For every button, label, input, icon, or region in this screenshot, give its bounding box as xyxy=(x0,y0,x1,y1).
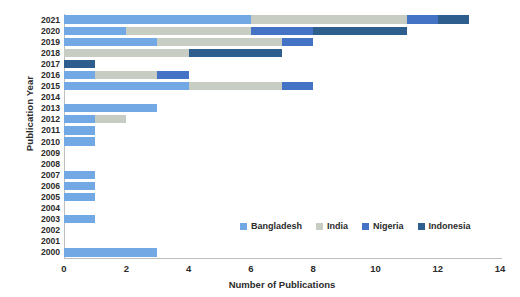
legend-label: Indonesia xyxy=(429,221,471,231)
bar-segment xyxy=(407,15,438,23)
x-axis-tick-label: 4 xyxy=(186,263,191,274)
bar-segment xyxy=(95,115,126,123)
bar-row xyxy=(64,15,500,23)
bar-segment xyxy=(64,215,95,223)
bar-row xyxy=(64,149,500,157)
x-axis-tick-label: 8 xyxy=(310,263,315,274)
bar-row xyxy=(64,182,500,190)
legend-item[interactable]: India xyxy=(316,221,348,231)
legend-swatch-icon xyxy=(240,223,247,230)
x-axis-tick-label: 12 xyxy=(432,263,443,274)
y-axis-tick-label: 2009 xyxy=(18,148,60,158)
bar-segment xyxy=(64,49,189,57)
bar-segment xyxy=(282,82,313,90)
bar-row xyxy=(64,71,500,79)
y-axis-tick-label: 2000 xyxy=(18,247,60,257)
x-axis-tick-label: 2 xyxy=(124,263,129,274)
bar-segment xyxy=(64,126,95,134)
y-axis-tick-label: 2006 xyxy=(18,181,60,191)
bar-row xyxy=(64,204,500,212)
y-axis-tick-label: 2005 xyxy=(18,192,60,202)
legend-label: India xyxy=(327,221,348,231)
bar-segment xyxy=(64,15,251,23)
y-axis-tick-label: 2013 xyxy=(18,103,60,113)
bar-row xyxy=(64,237,500,245)
y-axis-tick-label: 2016 xyxy=(18,70,60,80)
bar-row xyxy=(64,38,500,46)
bar-segment xyxy=(64,115,95,123)
y-axis-tick-label: 2010 xyxy=(18,137,60,147)
legend-item[interactable]: Nigeria xyxy=(362,221,404,231)
y-axis-tick-label: 2008 xyxy=(18,159,60,169)
bar-segment xyxy=(313,27,406,35)
bar-segment xyxy=(157,38,282,46)
bar-segment xyxy=(251,27,313,35)
legend-swatch-icon xyxy=(362,223,369,230)
y-axis-tick-label: 2017 xyxy=(18,59,60,69)
bar-segment xyxy=(438,15,469,23)
bar-segment xyxy=(64,60,95,68)
y-axis-tick-label: 2011 xyxy=(18,125,60,135)
x-axis-tick-label: 0 xyxy=(61,263,66,274)
legend-label: Nigeria xyxy=(373,221,404,231)
bar-segment xyxy=(64,248,157,256)
chart-legend: BangladeshIndiaNigeriaIndonesia xyxy=(240,221,471,231)
legend-item[interactable]: Indonesia xyxy=(418,221,471,231)
legend-swatch-icon xyxy=(316,223,323,230)
legend-swatch-icon xyxy=(418,223,425,230)
publications-by-year-chart: Publication Year 20212020201920182017201… xyxy=(0,0,520,297)
bar-row xyxy=(64,60,500,68)
y-axis-tick-label: 2021 xyxy=(18,15,60,25)
x-axis-line xyxy=(64,258,502,259)
x-axis-tick-label: 14 xyxy=(495,263,506,274)
y-axis-tick-label: 2018 xyxy=(18,48,60,58)
y-axis-tick-label: 2003 xyxy=(18,214,60,224)
bar-segment xyxy=(64,82,189,90)
bar-row xyxy=(64,160,500,168)
x-axis-title: Number of Publications xyxy=(64,279,500,290)
bar-segment xyxy=(157,71,188,79)
bar-row xyxy=(64,171,500,179)
y-axis-tick-label: 2002 xyxy=(18,225,60,235)
bar-row xyxy=(64,82,500,90)
bar-segment xyxy=(64,104,157,112)
bar-row xyxy=(64,193,500,201)
y-axis-tick-label: 2019 xyxy=(18,37,60,47)
bar-segment xyxy=(282,38,313,46)
bar-segment xyxy=(64,38,157,46)
bar-segment xyxy=(64,71,95,79)
bar-segment xyxy=(64,27,126,35)
bar-segment xyxy=(95,71,157,79)
bar-segment xyxy=(64,182,95,190)
y-axis-tick-label: 2014 xyxy=(18,92,60,102)
y-axis-tick-label: 2007 xyxy=(18,170,60,180)
bar-row xyxy=(64,104,500,112)
bar-segment xyxy=(189,49,282,57)
bar-row xyxy=(64,115,500,123)
x-axis-tick-label: 10 xyxy=(370,263,381,274)
y-axis-tick-label: 2004 xyxy=(18,203,60,213)
legend-label: Bangladesh xyxy=(251,221,302,231)
bar-segment xyxy=(126,27,251,35)
bar-row xyxy=(64,137,500,145)
bar-row xyxy=(64,49,500,57)
y-axis-tick-label: 2001 xyxy=(18,236,60,246)
bar-row xyxy=(64,126,500,134)
bar-row xyxy=(64,27,500,35)
bar-row xyxy=(64,248,500,256)
y-axis-tick-label: 2015 xyxy=(18,81,60,91)
x-axis-tick-label: 6 xyxy=(248,263,253,274)
bar-segment xyxy=(189,82,282,90)
bar-segment xyxy=(64,193,95,201)
bar-segment xyxy=(64,171,95,179)
bar-row xyxy=(64,93,500,101)
bar-segment xyxy=(251,15,407,23)
y-axis-tick-label: 2020 xyxy=(18,26,60,36)
bar-segment xyxy=(64,137,95,145)
y-axis-tick-label: 2012 xyxy=(18,114,60,124)
legend-item[interactable]: Bangladesh xyxy=(240,221,302,231)
